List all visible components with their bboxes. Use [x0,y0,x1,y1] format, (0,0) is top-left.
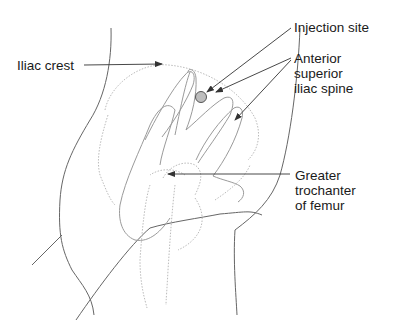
anatomy-diagram: Iliac crest Injection site Anterior supe… [0,0,395,332]
injection-site-marker [196,92,207,103]
label-anterior-superior-iliac-spine: Anterior superior iliac spine [294,51,353,96]
label-iliac-crest: Iliac crest [17,58,74,73]
label-injection-site: Injection site [294,20,369,35]
hand-outline [120,70,244,241]
leader-lines [84,28,291,174]
label-line: Anterior [294,51,353,66]
label-line: superior [294,66,353,81]
diagram-drawing [0,0,395,332]
label-line: Greater [295,168,356,183]
label-line: iliac spine [294,81,353,96]
label-line: of femur [295,198,356,213]
label-greater-trochanter: Greater trochanter of femur [295,168,356,213]
label-line: trochanter [295,183,356,198]
